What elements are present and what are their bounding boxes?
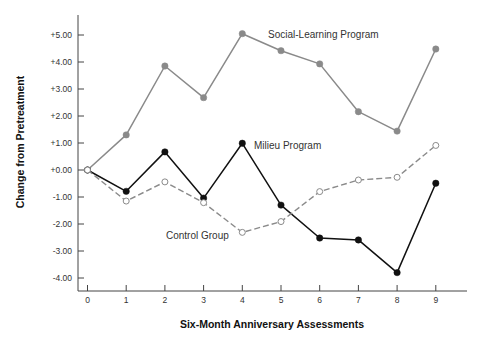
milieu-program-label: Milieu Program (254, 140, 321, 151)
series-social-learning-program (84, 30, 439, 173)
y-tick-label: -4.00 (53, 273, 73, 283)
milieu-program-point (239, 140, 245, 146)
control-group-point (394, 174, 400, 180)
control-group-line (88, 145, 436, 232)
x-tick-label: 2 (163, 295, 168, 305)
y-axis-title: Change from Pretreatment (14, 75, 26, 208)
series-milieu-program (84, 140, 439, 276)
x-tick-label: 6 (317, 295, 322, 305)
control-group-point (123, 198, 129, 204)
y-tick-label: +2.00 (50, 111, 72, 121)
milieu-program-point (278, 202, 284, 208)
y-tick-label: +5.00 (50, 30, 72, 40)
control-group-label: Control Group (166, 230, 229, 241)
milieu-program-point (433, 180, 439, 186)
x-tick-label: 1 (124, 295, 129, 305)
control-group-point (355, 177, 361, 183)
social-learning-program-point (433, 46, 439, 52)
y-tick-label: +4.00 (50, 57, 72, 67)
milieu-program-point (317, 235, 323, 241)
social-learning-program-point (317, 61, 323, 67)
control-group-point (433, 142, 439, 148)
x-axis-title: Six-Month Anniversary Assessments (180, 318, 364, 330)
social-learning-program-point (239, 30, 245, 36)
x-tick-label: 0 (85, 295, 90, 305)
axes (78, 15, 467, 291)
control-group-point (317, 189, 323, 195)
social-learning-program-label: Social-Learning Program (268, 29, 379, 40)
x-tick-label: 4 (240, 295, 245, 305)
control-group-point (201, 200, 207, 206)
milieu-program-line (88, 143, 436, 272)
y-tick-label: -2.00 (53, 219, 73, 229)
x-tick-label: 8 (395, 295, 400, 305)
series-group (84, 30, 439, 275)
control-group-point (85, 167, 91, 173)
series-control-group (85, 142, 439, 235)
x-tick-label: 3 (201, 295, 206, 305)
control-group-point (278, 219, 284, 225)
control-group-point (239, 229, 245, 235)
control-group-point (162, 179, 168, 185)
social-learning-program-point (394, 128, 400, 134)
series-labels: Social-Learning ProgramMilieu ProgramCon… (166, 29, 379, 241)
x-tick-label: 5 (279, 295, 284, 305)
y-tick-label: -3.00 (53, 246, 73, 256)
y-tick-label: +1.00 (50, 138, 72, 148)
milieu-program-point (162, 149, 168, 155)
x-tick-label: 9 (433, 295, 438, 305)
x-tick-label: 7 (356, 295, 361, 305)
y-tick-label: +3.00 (50, 84, 72, 94)
milieu-program-point (123, 188, 129, 194)
y-tick-label: +0.00 (50, 165, 72, 175)
x-axis-ticks: 0123456789 (85, 285, 438, 305)
social-learning-program-point (278, 47, 284, 53)
line-chart: +5.00+4.00+3.00+2.00+1.00+0.00-1.00-2.00… (0, 0, 480, 339)
y-tick-label: -1.00 (53, 192, 73, 202)
social-learning-program-point (200, 94, 206, 100)
social-learning-program-point (123, 132, 129, 138)
milieu-program-point (355, 237, 361, 243)
milieu-program-point (394, 269, 400, 275)
social-learning-program-point (162, 63, 168, 69)
social-learning-program-point (355, 108, 361, 114)
y-axis-ticks: +5.00+4.00+3.00+2.00+1.00+0.00-1.00-2.00… (50, 30, 84, 283)
